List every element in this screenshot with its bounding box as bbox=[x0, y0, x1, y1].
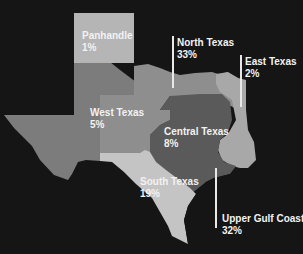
region-name: East Texas bbox=[245, 56, 297, 68]
label-panhandle: Panhandle 1% bbox=[82, 30, 133, 54]
label-north-texas: North Texas 33% bbox=[177, 37, 234, 61]
region-value: 19% bbox=[140, 188, 199, 200]
region-name: West Texas bbox=[90, 107, 144, 119]
region-name: North Texas bbox=[177, 37, 234, 49]
region-name: South Texas bbox=[140, 176, 199, 188]
label-central-texas: Central Texas 8% bbox=[164, 126, 229, 150]
region-name: Upper Gulf Coast bbox=[222, 213, 303, 225]
label-south-texas: South Texas 19% bbox=[140, 176, 199, 200]
region-value: 5% bbox=[90, 119, 144, 131]
region-value: 33% bbox=[177, 49, 234, 61]
region-value: 32% bbox=[222, 225, 303, 237]
region-name: Panhandle bbox=[82, 30, 133, 42]
leader-east-texas bbox=[240, 55, 242, 107]
label-upper-gulf-coast: Upper Gulf Coast 32% bbox=[222, 213, 303, 237]
region-value: 2% bbox=[245, 68, 297, 80]
region-value: 8% bbox=[164, 138, 229, 150]
region-value: 1% bbox=[82, 42, 133, 54]
leader-north-texas bbox=[172, 36, 174, 88]
region-name: Central Texas bbox=[164, 126, 229, 138]
label-west-texas: West Texas 5% bbox=[90, 107, 144, 131]
leader-upper-gulf-coast bbox=[215, 168, 217, 228]
label-east-texas: East Texas 2% bbox=[245, 56, 297, 80]
